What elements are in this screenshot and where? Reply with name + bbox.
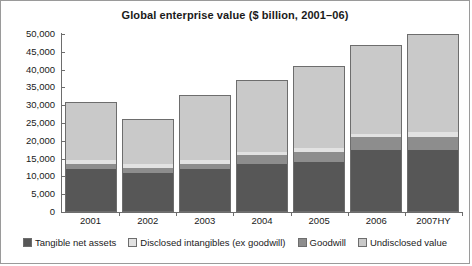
bar-2007HY[interactable] xyxy=(407,34,459,212)
bar-segment-undisclosed-value xyxy=(179,95,231,161)
chart-figure: Global enterprise value ($ billion, 2001… xyxy=(0,0,470,264)
bar-segment-undisclosed-value xyxy=(236,80,288,151)
bar-2005[interactable] xyxy=(293,66,345,212)
legend-swatch-icon xyxy=(358,238,367,247)
bar-segment-tangible-net-assets xyxy=(65,169,117,212)
legend-label: Disclosed intangibles (ex goodwill) xyxy=(140,237,285,248)
bar-segment-goodwill xyxy=(350,137,402,149)
y-axis-tick-label: 15,000 xyxy=(1,153,62,165)
x-axis-line xyxy=(61,212,463,213)
plot-area xyxy=(62,34,462,212)
bar-segment-tangible-net-assets xyxy=(122,173,174,212)
x-axis-tick-label: 2005 xyxy=(289,215,349,226)
x-axis-tick-label: 2001 xyxy=(61,215,121,226)
bar-2006[interactable] xyxy=(350,45,402,212)
x-axis-tick-mark xyxy=(462,212,463,216)
bar-segment-tangible-net-assets xyxy=(179,169,231,212)
y-axis-tick-mark xyxy=(61,212,65,213)
y-axis-tick-label: 20,000 xyxy=(1,135,62,147)
x-axis-tick-label: 2004 xyxy=(232,215,292,226)
bar-2002[interactable] xyxy=(122,119,174,212)
bar-2004[interactable] xyxy=(236,80,288,212)
legend-swatch-icon xyxy=(128,238,137,247)
bar-2003[interactable] xyxy=(179,95,231,212)
chart-title: Global enterprise value ($ billion, 2001… xyxy=(1,9,469,21)
y-axis-tick-label: 45,000 xyxy=(1,46,62,58)
bar-segment-goodwill xyxy=(293,152,345,163)
legend-label: Goodwill xyxy=(310,237,346,248)
y-axis-tick-label: 5,000 xyxy=(1,188,62,200)
bar-segment-goodwill xyxy=(236,155,288,164)
x-axis-tick-label: 2006 xyxy=(346,215,406,226)
y-axis-tick-label: 10,000 xyxy=(1,170,62,182)
bar-segment-undisclosed-value xyxy=(407,34,459,132)
legend-label: Undisclosed value xyxy=(370,237,447,248)
y-axis-tick-label: 30,000 xyxy=(1,99,62,111)
x-axis-tick-label: 2002 xyxy=(118,215,178,226)
legend-swatch-icon xyxy=(23,238,32,247)
x-axis-tick-label: 2007HY xyxy=(403,215,463,226)
y-axis-tick-label: 40,000 xyxy=(1,64,62,76)
bar-segment-undisclosed-value xyxy=(350,45,402,134)
bar-segment-goodwill xyxy=(407,137,459,149)
bar-segment-undisclosed-value xyxy=(122,119,174,164)
bar-segment-tangible-net-assets xyxy=(407,150,459,212)
bar-segment-tangible-net-assets xyxy=(293,162,345,212)
bar-segment-undisclosed-value xyxy=(65,102,117,161)
bar-2001[interactable] xyxy=(65,102,117,212)
y-axis-tick-label: 35,000 xyxy=(1,81,62,93)
legend-item-goodwill[interactable]: Goodwill xyxy=(298,237,346,248)
x-axis-tick-label: 2003 xyxy=(175,215,235,226)
legend-swatch-icon xyxy=(298,238,307,247)
bar-segment-tangible-net-assets xyxy=(350,150,402,212)
legend-item-disclosed-intangibles-ex-goodwill[interactable]: Disclosed intangibles (ex goodwill) xyxy=(128,237,285,248)
legend-item-tangible-net-assets[interactable]: Tangible net assets xyxy=(23,237,116,248)
legend-item-undisclosed-value[interactable]: Undisclosed value xyxy=(358,237,447,248)
y-axis-tick-label: 25,000 xyxy=(1,117,62,129)
y-axis-tick-label: 0 xyxy=(1,206,62,218)
y-axis-tick-label: 50,000 xyxy=(1,28,62,40)
legend-label: Tangible net assets xyxy=(35,237,116,248)
bar-segment-undisclosed-value xyxy=(293,66,345,148)
chart-legend: Tangible net assetsDisclosed intangibles… xyxy=(1,237,469,248)
bar-segment-tangible-net-assets xyxy=(236,164,288,212)
